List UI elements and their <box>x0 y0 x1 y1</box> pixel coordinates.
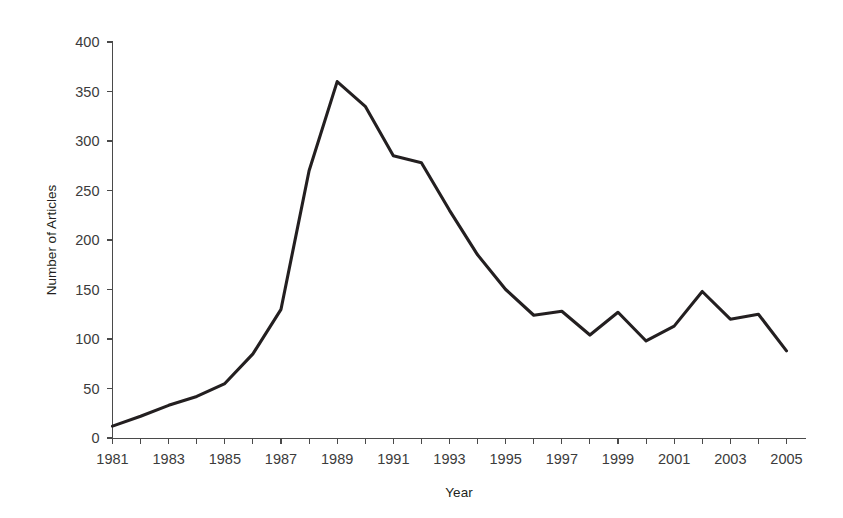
chart-figure: 050100150200250300350400 198119831985198… <box>0 0 843 518</box>
y-axis-title: Number of Articles <box>44 185 59 296</box>
x-tick-label: 1999 <box>602 451 634 467</box>
x-tick-label: 1989 <box>321 451 353 467</box>
x-tick-label: 1991 <box>377 451 409 467</box>
x-tick-label: 1983 <box>153 451 185 467</box>
x-tick-label: 2003 <box>714 451 746 467</box>
x-tick-label: 1987 <box>265 451 297 467</box>
x-tick-label: 2001 <box>658 451 690 467</box>
x-tick-label: 1993 <box>433 451 465 467</box>
y-tick-label: 100 <box>75 331 99 347</box>
y-tick-label: 400 <box>75 34 99 50</box>
y-tick-label: 350 <box>75 84 99 100</box>
line-chart: 050100150200250300350400 198119831985198… <box>0 0 843 518</box>
x-tick-label: 1981 <box>96 451 128 467</box>
y-tick-label: 250 <box>75 183 99 199</box>
x-tick-label: 1997 <box>546 451 578 467</box>
y-tick-label: 200 <box>75 232 99 248</box>
y-tick-label: 0 <box>91 430 99 446</box>
y-tick-label: 50 <box>83 381 99 397</box>
x-tick-label: 2005 <box>770 451 802 467</box>
x-axis-title: Year <box>445 485 473 500</box>
x-tick-label: 1985 <box>209 451 241 467</box>
y-tick-label: 300 <box>75 133 99 149</box>
x-tick-label: 1995 <box>490 451 522 467</box>
y-tick-label: 150 <box>75 282 99 298</box>
